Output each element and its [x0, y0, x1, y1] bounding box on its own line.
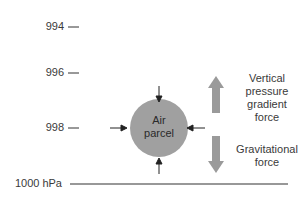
pressure-label-998: 998 [4, 121, 64, 133]
downward-force-arrow-icon [208, 136, 224, 173]
downward-force-line1: Gravitational [228, 143, 305, 156]
upward-force-line2: pressure [232, 85, 302, 98]
pressure-label-1000: 1000 hPa [2, 177, 62, 189]
upward-force-arrow-icon [208, 76, 224, 113]
upward-force-line4: force [232, 111, 302, 124]
air-parcel-label: Air parcel [131, 114, 187, 140]
upward-force-label: Vertical pressure gradient force [232, 72, 302, 124]
upward-force-line3: gradient [232, 98, 302, 111]
pressure-label-996: 996 [4, 66, 64, 78]
pressure-label-994: 994 [4, 20, 64, 32]
upward-force-line1: Vertical [232, 72, 302, 85]
air-parcel-line2: parcel [131, 127, 187, 140]
air-parcel-line1: Air [131, 114, 187, 127]
downward-force-label: Gravitational force [228, 143, 305, 169]
downward-force-line2: force [228, 156, 305, 169]
